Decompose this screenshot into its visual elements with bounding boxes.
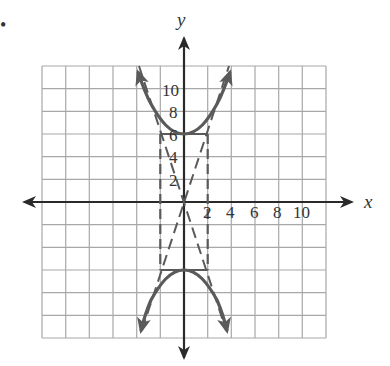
hyperbola-graph: • (0, 0, 390, 366)
lower-branch-left (141, 270, 184, 331)
x-tick-labels: 2 4 6 8 10 (203, 203, 310, 222)
y-tick-label: 10 (162, 81, 179, 100)
y-tick-label: 4 (169, 148, 178, 167)
x-tick-label: 6 (250, 203, 259, 222)
x-tick-label: 4 (226, 203, 235, 222)
bullet-marker: • (0, 15, 6, 36)
y-tick-labels: 10 8 6 4 2 (162, 81, 179, 190)
x-tick-label: 10 (293, 203, 310, 222)
lower-branch-right (184, 270, 227, 331)
y-axis-label: y (175, 9, 186, 30)
x-tick-label: 2 (203, 203, 212, 222)
y-tick-label: 8 (169, 103, 178, 122)
x-tick-label: 8 (273, 203, 282, 222)
chart-canvas: y x 10 8 6 4 2 2 4 6 8 10 (0, 0, 390, 366)
y-tick-label: 2 (169, 171, 178, 190)
y-tick-label: 6 (169, 126, 178, 145)
x-axis-label: x (363, 191, 373, 212)
